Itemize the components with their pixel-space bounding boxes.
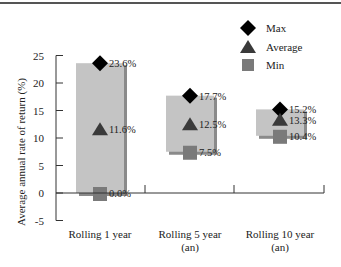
- legend: MaxAverageMin: [240, 20, 303, 71]
- category-label: (an): [271, 241, 289, 254]
- category-label: Rolling 5 year: [159, 228, 222, 240]
- min-value-label: 10.4%: [289, 131, 316, 142]
- average-value-label: 11.6%: [109, 124, 136, 135]
- category-label: Rolling 1 year: [69, 228, 132, 240]
- range-bars: 23.6%11.6%0.0%17.7%12.5%7.5%15.2%13.3%10…: [76, 55, 316, 201]
- average-value-label: 13.3%: [289, 115, 316, 126]
- min-square-marker: [183, 146, 197, 160]
- y-axis-label: Average annual rate of return (%): [15, 78, 28, 226]
- y-tick-label: 20: [33, 77, 45, 89]
- min-square-marker: [93, 187, 107, 201]
- max-value-label: 15.2%: [289, 104, 316, 115]
- legend-entry-label: Min: [266, 59, 285, 71]
- min-value-label: 7.5%: [199, 147, 221, 158]
- y-tick-label: 25: [33, 50, 45, 62]
- y-axis: 2520151050-5: [33, 50, 63, 227]
- legend-entry-label: Average: [266, 41, 303, 53]
- legend-average-triangle-icon: [240, 40, 256, 53]
- y-tick-label: 15: [33, 105, 45, 117]
- y-tick-label: 0: [39, 187, 45, 199]
- legend-min-square-icon: [242, 59, 254, 71]
- y-tick-label: 10: [33, 132, 45, 144]
- category-label: (an): [181, 241, 199, 254]
- range-chart: 2520151050-5 23.6%11.6%0.0%17.7%12.5%7.5…: [0, 0, 341, 267]
- y-tick-label: 5: [39, 160, 45, 172]
- max-value-label: 23.6%: [109, 58, 136, 69]
- y-tick-label: -5: [35, 215, 45, 227]
- average-value-label: 12.5%: [199, 119, 226, 130]
- min-square-marker: [273, 130, 287, 144]
- legend-max-diamond-icon: [240, 20, 256, 36]
- max-value-label: 17.7%: [199, 91, 226, 102]
- legend-entry-label: Max: [266, 22, 287, 34]
- category-label: Rolling 10 year: [246, 228, 315, 240]
